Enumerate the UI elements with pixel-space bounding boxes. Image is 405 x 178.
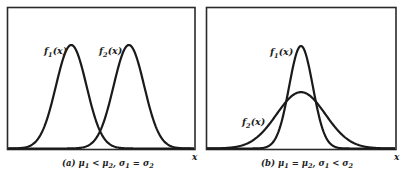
panel-b-f2-curve [207,92,395,148]
panel-a-f2-label: f2(x) [98,45,122,59]
panel-b: f1(x) f2(x) x (b) μ1 = μ2, σ1 < σ2 [207,8,401,171]
panel-b-caption: (b) μ1 = μ2, σ1 < σ2 [261,158,354,170]
panel-b-f2-label: f2(x) [241,116,265,130]
panel-a: f1(x) f2(x) x (a) μ1 < μ2, σ1 = σ2 [8,8,199,171]
panel-b-frame [207,8,397,150]
figure: f1(x) f2(x) x (a) μ1 < μ2, σ1 = σ2 f1(x)… [0,0,405,178]
panel-b-x-axis-label: x [393,152,400,162]
panel-b-f1-label: f1(x) [269,46,293,60]
panel-a-x-axis-label: x [191,152,198,162]
panel-b-f1-curve [207,46,395,149]
panel-a-f1-curve [8,45,194,149]
panel-a-caption: (a) μ1 < μ2, σ1 = σ2 [62,158,154,170]
